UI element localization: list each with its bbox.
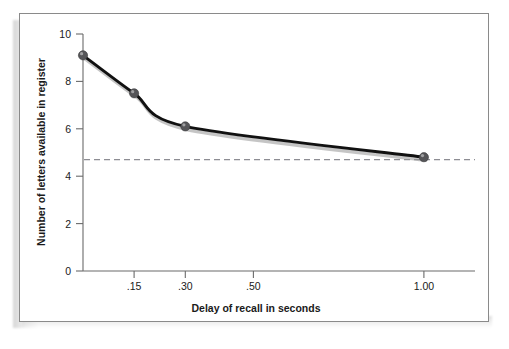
x-tick-label: .15 — [127, 280, 142, 292]
x-axis-title: Delay of recall in seconds — [192, 302, 321, 314]
y-tick-label: 2 — [65, 218, 71, 230]
y-axis-tick-labels: 0246810 — [59, 28, 71, 277]
x-tick-label: .30 — [178, 280, 193, 292]
data-point-highlight — [182, 123, 185, 126]
x-tick-label: 1.00 — [414, 280, 435, 292]
figure-root: 0246810 .15.30.501.00 Delay of recall in… — [0, 0, 509, 349]
y-axis-title: Number of letters available in register — [35, 58, 47, 246]
plot-area: 0246810 .15.30.501.00 Delay of recall in… — [20, 14, 490, 323]
data-point-highlight — [80, 52, 83, 55]
data-point-marker — [419, 153, 428, 162]
data-curve — [83, 55, 424, 157]
figure-frame: 0246810 .15.30.501.00 Delay of recall in… — [19, 13, 489, 322]
data-point-marker — [78, 51, 87, 60]
data-point-marker — [181, 122, 190, 131]
data-point-highlight — [421, 154, 424, 157]
y-tick-label: 6 — [65, 123, 71, 135]
y-tick-label: 8 — [65, 75, 71, 87]
curve-shadow — [85, 58, 426, 160]
x-axis-tick-labels: .15.30.501.00 — [127, 280, 434, 292]
data-point-highlight — [131, 90, 134, 93]
x-tick-label: .50 — [246, 280, 261, 292]
data-point-markers — [78, 51, 428, 162]
y-axis-ticks — [76, 34, 83, 271]
y-tick-label: 0 — [65, 265, 71, 277]
x-axis-ticks — [134, 271, 424, 278]
data-point-marker — [130, 89, 139, 98]
line-chart: 0246810 .15.30.501.00 Delay of recall in… — [20, 14, 490, 323]
y-tick-label: 10 — [59, 28, 71, 40]
y-tick-label: 4 — [65, 170, 71, 182]
